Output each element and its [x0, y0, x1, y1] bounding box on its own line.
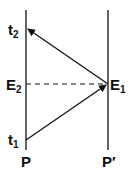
label-e2: E2	[6, 77, 22, 95]
signal-out	[26, 85, 106, 140]
signal-back	[28, 29, 108, 84]
label-t1: t1	[8, 132, 19, 150]
label-p-prime: P′	[102, 154, 116, 169]
light-signal-diagram: t2 E2 E1 t1 P P′	[0, 0, 131, 176]
label-e1: E1	[110, 77, 126, 95]
label-t2: t2	[8, 22, 19, 40]
label-p: P	[21, 154, 31, 169]
